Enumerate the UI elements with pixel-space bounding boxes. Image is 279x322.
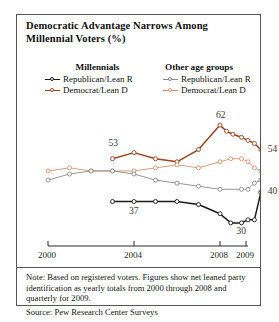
data-point-marker [252, 166, 256, 170]
data-label-62: 62 [216, 110, 226, 120]
data-point-marker [246, 218, 250, 222]
data-point-marker [154, 166, 158, 170]
data-point-marker [197, 203, 201, 207]
data-point-marker [132, 200, 136, 204]
data-point-marker [111, 157, 115, 161]
data-label-54: 54 [268, 144, 278, 154]
data-point-marker [218, 123, 222, 127]
data-point-marker [240, 221, 244, 225]
series-line [113, 125, 261, 162]
data-point-marker [240, 135, 244, 139]
data-point-marker [229, 157, 233, 161]
data-point-marker [154, 200, 158, 204]
legend-label: Democrat/Lean D [63, 85, 128, 96]
data-point-marker [89, 169, 93, 173]
legend-label: Republican/Lean R [181, 74, 251, 85]
data-point-marker [252, 181, 256, 185]
data-label-30: 30 [237, 226, 247, 236]
legend-label: Republican/Lean R [63, 74, 133, 85]
chart-figure: Democratic Advantage Narrows Among Mille… [16, 14, 261, 306]
data-point-marker [231, 132, 235, 136]
data-point-marker [46, 169, 50, 173]
data-point-marker [229, 221, 233, 225]
line-marker-icon [45, 86, 60, 95]
data-point-marker [218, 160, 222, 164]
legend-label: Democrat/Lean D [181, 85, 246, 96]
data-point-marker [132, 151, 136, 155]
footer-divider [17, 267, 260, 268]
x-tick-label-2004: 2004 [124, 250, 142, 260]
data-point-marker [197, 166, 201, 170]
x-tick-label-2008: 2008 [210, 250, 228, 260]
data-point-marker [259, 148, 260, 152]
data-point-marker [154, 157, 158, 161]
data-point-marker [175, 163, 179, 167]
data-point-marker [175, 200, 179, 204]
chart-source: Source: Pew Research Center Surveys [26, 307, 250, 318]
data-point-marker [68, 166, 72, 170]
legend-item-other-republican: Republican/Lean R [163, 74, 273, 85]
legend-group-heading: Other age groups [163, 62, 273, 72]
legend-item-millennials-democrat: Democrat/Lean D [45, 85, 150, 96]
legend-item-millennials-republican: Republican/Lean R [45, 74, 150, 85]
data-point-marker [175, 181, 179, 185]
legend-item-other-democrat: Democrat/Lean D [163, 85, 273, 96]
data-point-marker [197, 184, 201, 188]
x-tick-label-2009: 2009 [236, 250, 254, 260]
x-axis: 2000 2004 2008 2009 [17, 239, 260, 265]
data-point-marker [240, 187, 244, 191]
data-point-marker [111, 169, 115, 173]
data-point-marker [224, 129, 228, 133]
data-label-40: 40 [268, 186, 278, 196]
data-point-marker [246, 187, 250, 191]
page-title: Democratic Advantage Narrows Among Mille… [26, 20, 254, 45]
plot-area: 53 62 54 37 30 40 [17, 107, 260, 242]
data-point-marker [111, 200, 115, 204]
data-point-marker [246, 160, 250, 164]
data-point-marker [68, 172, 72, 176]
legend-other-age-groups: Other age groups Republican/Lean R Democ… [163, 62, 273, 96]
line-marker-icon [163, 86, 178, 95]
data-point-marker [132, 172, 136, 176]
data-point-marker [259, 169, 260, 173]
legend-millennials: Millennials Republican/Lean R Democrat/L… [45, 62, 150, 96]
data-point-marker [259, 190, 260, 194]
data-point-marker [240, 157, 244, 161]
line-marker-icon [45, 75, 60, 84]
data-point-marker [218, 212, 222, 216]
data-point-marker [218, 187, 222, 191]
x-tick-label-2000: 2000 [38, 250, 56, 260]
chart-note: Note: Based on registered voters. Figure… [26, 272, 250, 304]
data-point-marker [46, 178, 50, 182]
line-chart-svg [17, 107, 260, 242]
data-point-marker [197, 148, 201, 152]
data-label-37: 37 [129, 206, 139, 216]
data-point-marker [154, 178, 158, 182]
line-marker-icon [163, 75, 178, 84]
legend-group-heading: Millennials [45, 62, 150, 72]
data-label-53: 53 [109, 138, 119, 148]
data-point-marker [252, 218, 256, 222]
data-point-marker [252, 141, 256, 145]
data-point-marker [246, 138, 250, 142]
data-point-marker [259, 178, 260, 182]
